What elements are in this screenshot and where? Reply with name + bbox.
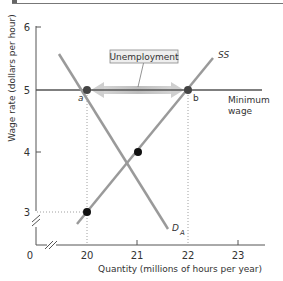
point-a [83,86,91,94]
point-20-3 [83,208,91,216]
chart-svg: 6 5 4 3 Wage rate (dollars per hour) 0 2… [0,0,283,281]
demand-label-sub: A [179,229,185,237]
y-tick-4: 4 [24,147,30,158]
supply-curve [77,58,213,224]
minimum-wage-label-1: Minimum [228,95,270,105]
x-tick-23: 23 [232,250,245,261]
unemployment-text: Unemployment [109,52,179,62]
x-tick-21: 21 [131,250,144,261]
point-b [184,86,192,94]
demand-label: D A [172,223,185,237]
top-rule [12,0,283,4]
x-tick-20: 20 [81,250,94,261]
y-tick-6: 6 [24,22,30,33]
origin-label: 0 [27,250,33,261]
x-axis-title: Quantity (millions of hours per year) [98,264,262,274]
demand-label-main: D [172,223,179,233]
chart: 6 5 4 3 Wage rate (dollars per hour) 0 2… [0,0,283,281]
y-axis-title: Wage rate (dollars per hour) [7,14,17,142]
demand-curve [59,54,168,229]
point-a-label: a [78,93,84,103]
y-tick-5: 5 [24,85,30,96]
y-axis: 6 5 4 3 Wage rate (dollars per hour) [7,14,41,245]
y-tick-3: 3 [24,207,30,218]
point-b-label: b [193,93,199,103]
equilibrium-point [134,148,142,156]
x-axis: 0 20 21 22 23 Quantity (millions of hour… [27,240,265,274]
x-tick-22: 22 [182,250,195,261]
minimum-wage-label-2: wage [228,106,253,116]
supply-label: SS [218,50,229,60]
unemployment-label: Unemployment [109,50,179,87]
